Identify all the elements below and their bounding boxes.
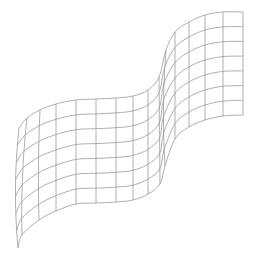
row-lines: [16, 12, 244, 248]
column-lines: [16, 12, 244, 248]
grid-row-line: [17, 27, 243, 146]
grid-row-line: [17, 100, 243, 231]
grid-row-line: [18, 115, 243, 248]
grid-row-line: [16, 86, 243, 214]
grid-row-line: [16, 41, 243, 162]
grid-row-line: [16, 56, 243, 179]
wireframe-surface: [0, 0, 259, 263]
grid-row-line: [16, 71, 244, 197]
